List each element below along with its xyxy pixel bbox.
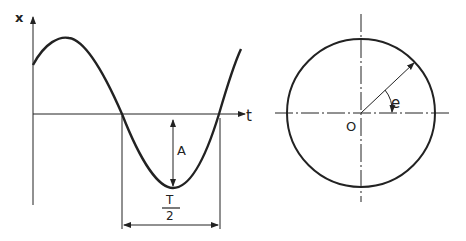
half-period-denominator: 2 [166, 209, 174, 223]
sine-wave-plot: x t A T 2 [15, 10, 252, 229]
diagram-canvas: x t A T 2 e O [0, 0, 466, 241]
sine-curve [33, 38, 241, 188]
half-period-numerator: T [165, 193, 174, 207]
origin-label: O [346, 119, 356, 134]
x-axis-label: x [15, 10, 24, 25]
t-axis-label: t [246, 107, 252, 125]
radius-vector [361, 63, 414, 113]
angle-label: e [391, 94, 400, 112]
phasor-circle-plot: e O [275, 14, 450, 202]
amplitude-label: A [177, 143, 186, 158]
